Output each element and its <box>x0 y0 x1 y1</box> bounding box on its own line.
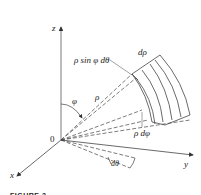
phi-arc <box>61 104 82 118</box>
x-axis <box>17 140 61 176</box>
rho-sin-phi-dtheta-label: ρ sin φ dθ <box>73 55 110 65</box>
phi-label: φ <box>72 96 77 106</box>
y-axis <box>61 140 193 155</box>
figure-caption: FIGURE 3 <box>10 192 46 195</box>
z-axis-label: z <box>51 23 56 33</box>
spherical-volume-element-figure: z y x 0 ρ sin φ dθ dρ ρ φ ρ dφ dθ FIGURE… <box>0 0 201 195</box>
y-axis-label: y <box>183 159 188 169</box>
origin-label: 0 <box>50 134 55 144</box>
x-axis-label: x <box>9 170 14 180</box>
rho-dphi-label: ρ dφ <box>133 128 150 138</box>
drho-label: dρ <box>138 47 148 57</box>
volume-element <box>132 55 190 125</box>
leader-rho-sin <box>110 60 132 75</box>
rho-label: ρ <box>94 92 100 102</box>
dtheta-label: dθ <box>111 159 119 168</box>
